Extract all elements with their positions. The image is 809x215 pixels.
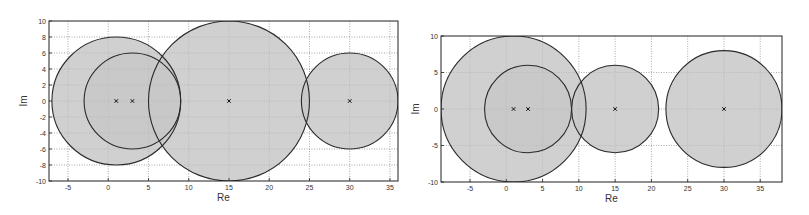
figure: -505101520253035-10-8-6-4-20246810ReIm -… [0,0,809,215]
x-axis-label: Re [605,193,618,204]
x-tick-label: 0 [504,185,508,192]
y-tick-label: 5 [434,69,438,76]
x-tick-label: 35 [386,184,394,191]
y-tick-label: -2 [40,114,46,121]
y-axis-label: Im [18,95,29,106]
y-tick-label: -6 [40,146,46,153]
y-tick-label: -8 [40,162,46,169]
gershgorin-chart-right: -505101520253035-10-50510ReIm [410,33,782,205]
y-tick-label: 0 [42,98,46,105]
y-tick-label: -4 [40,130,46,137]
x-tick-label: 25 [684,185,692,192]
y-tick-label: -10 [36,178,46,185]
x-tick-label: 30 [720,185,728,192]
x-tick-label: 5 [541,185,545,192]
x-tick-label: 35 [756,185,764,192]
y-tick-label: 4 [42,66,46,73]
y-tick-label: -5 [432,142,438,149]
x-tick-label: -5 [65,184,71,191]
x-tick-label: 15 [611,185,619,192]
y-tick-label: 10 [430,33,438,40]
y-tick-label: -10 [428,179,438,186]
y-axis-label: Im [410,103,421,114]
y-tick-label: 8 [42,34,46,41]
gershgorin-chart-left: -505101520253035-10-8-6-4-20246810ReIm [18,18,398,204]
x-tick-label: 5 [147,184,151,191]
x-tick-label: 30 [346,184,354,191]
x-tick-label: 10 [575,185,583,192]
x-tick-label: 10 [185,184,193,191]
x-tick-label: 20 [648,185,656,192]
x-tick-label: 25 [306,184,314,191]
x-axis-label: Re [217,192,230,203]
x-tick-label: 0 [106,184,110,191]
y-tick-label: 10 [38,18,46,25]
x-tick-label: 20 [265,184,273,191]
x-tick-label: 15 [225,184,233,191]
x-tick-label: -5 [467,185,473,192]
y-tick-label: 0 [434,106,438,113]
y-tick-label: 6 [42,50,46,57]
y-tick-label: 2 [42,82,46,89]
